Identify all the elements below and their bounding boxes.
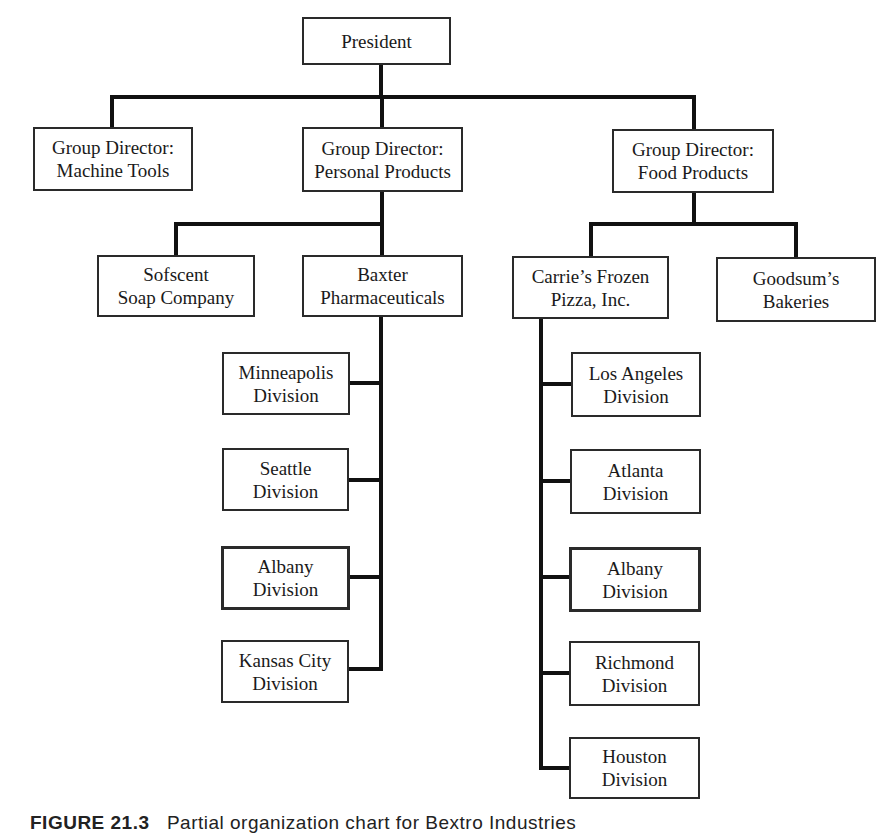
node-label: Kansas City Division: [239, 649, 331, 695]
connector-sofscent: [174, 222, 178, 256]
node-label: Los Angeles Division: [589, 362, 683, 408]
connector-top-bar: [110, 95, 696, 99]
node-label: Houston Division: [602, 745, 667, 791]
connector-los-angeles: [539, 382, 572, 386]
connector-houston: [539, 766, 572, 770]
figure-caption-text: Partial organization chart for Bextro In…: [167, 812, 576, 833]
connector-minneapolis: [348, 381, 383, 385]
figure-caption: FIGURE 21.3 Partial organization chart f…: [30, 812, 576, 834]
node-atlanta-division: Atlanta Division: [570, 449, 701, 514]
connector-goodsums: [794, 222, 798, 258]
node-label: Sofscent Soap Company: [118, 263, 235, 309]
node-label: Albany Division: [602, 557, 667, 603]
node-label: Group Director: Machine Tools: [52, 136, 174, 182]
node-albany-division-carries: Albany Division: [569, 547, 701, 612]
node-group-director-machine-tools: Group Director: Machine Tools: [33, 127, 193, 191]
connector-albany-baxter: [348, 575, 383, 579]
node-president: President: [302, 17, 451, 65]
node-label: Richmond Division: [595, 651, 674, 697]
node-label: Carrie’s Frozen Pizza, Inc.: [532, 265, 650, 311]
connector-personal-bar: [174, 222, 384, 226]
node-houston-division: Houston Division: [569, 737, 700, 799]
connector-president-stem: [379, 64, 383, 99]
connector-atlanta: [539, 479, 572, 483]
node-minneapolis-division: Minneapolis Division: [222, 352, 350, 415]
connector-personal-products: [380, 95, 384, 128]
connector-baxter: [380, 222, 384, 256]
node-label: Seattle Division: [253, 457, 318, 503]
connector-richmond: [539, 671, 572, 675]
node-goodsums-bakeries: Goodsum’s Bakeries: [716, 257, 876, 322]
connector-albany-carries: [539, 575, 572, 579]
node-sofscent-soap-company: Sofscent Soap Company: [97, 255, 255, 317]
connector-food-stem: [692, 191, 696, 226]
node-label: Baxter Pharmaceuticals: [320, 263, 445, 309]
node-richmond-division: Richmond Division: [569, 641, 700, 706]
connector-personal-stem: [380, 190, 384, 226]
connector-food-products: [692, 95, 696, 131]
connector-kansas-city: [348, 667, 383, 671]
node-label: Atlanta Division: [603, 459, 668, 505]
node-baxter-pharmaceuticals: Baxter Pharmaceuticals: [302, 255, 463, 317]
figure-label: FIGURE 21.3: [30, 812, 150, 833]
node-group-director-food-products: Group Director: Food Products: [612, 129, 774, 193]
node-label: Minneapolis Division: [239, 361, 334, 407]
node-label: Group Director: Food Products: [632, 138, 754, 184]
node-carries-frozen-pizza: Carrie’s Frozen Pizza, Inc.: [512, 256, 669, 319]
connector-carries: [589, 222, 593, 257]
connector-baxter-spine: [379, 315, 383, 671]
node-los-angeles-division: Los Angeles Division: [571, 352, 701, 417]
connector-seattle: [348, 478, 383, 482]
node-label: Group Director: Personal Products: [314, 137, 451, 183]
node-kansas-city-division: Kansas City Division: [221, 640, 349, 703]
node-seattle-division: Seattle Division: [222, 448, 349, 511]
node-label: Goodsum’s Bakeries: [753, 267, 840, 313]
node-albany-division-baxter: Albany Division: [221, 546, 350, 610]
node-label: President: [341, 30, 412, 53]
connector-machine-tools: [110, 95, 114, 128]
node-label: Albany Division: [253, 555, 318, 601]
connector-food-bar: [589, 222, 798, 226]
node-group-director-personal-products: Group Director: Personal Products: [302, 127, 463, 192]
